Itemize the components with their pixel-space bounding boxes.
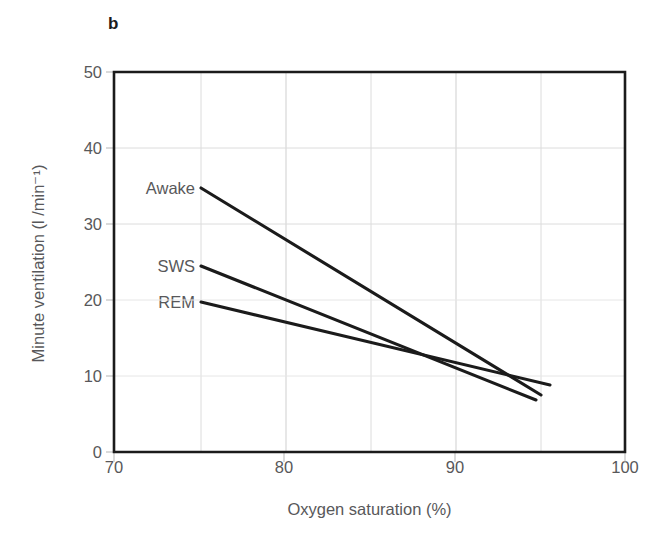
series-line-sws [201, 266, 536, 400]
axis-frame [114, 72, 625, 452]
data-series-lines [201, 188, 550, 400]
plot-area [0, 0, 668, 550]
axis-ticks [106, 72, 625, 462]
figure-panel-b: b Minute ventilation (l /min⁻¹) Oxygen s… [0, 0, 668, 550]
series-line-rem [201, 302, 550, 385]
gridlines-vertical [201, 72, 541, 452]
